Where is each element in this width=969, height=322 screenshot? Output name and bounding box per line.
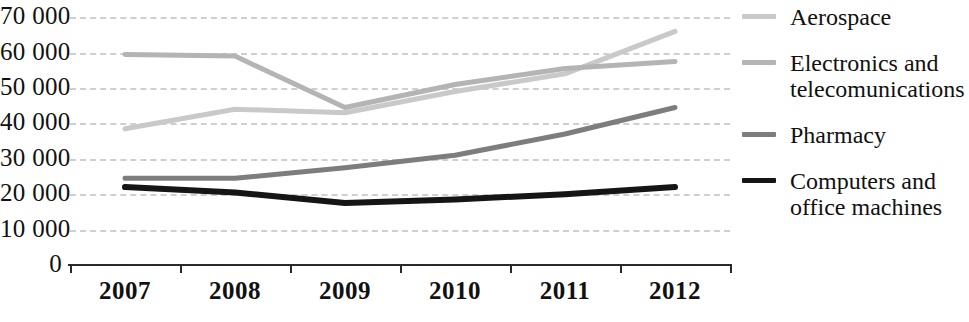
x-axis-tick bbox=[730, 264, 732, 273]
legend-item[interactable]: Computers and office machines bbox=[742, 168, 942, 220]
plot-area bbox=[70, 0, 730, 322]
legend-swatch-icon bbox=[742, 132, 776, 137]
x-axis-tick-label: 2008 bbox=[180, 277, 290, 304]
x-axis-tick bbox=[290, 264, 292, 273]
y-axis-tick-label: 40 000 bbox=[0, 109, 62, 134]
series-line bbox=[125, 31, 675, 128]
legend-label: Electronics and telecomunications bbox=[790, 50, 965, 102]
x-axis-tick-label: 2007 bbox=[70, 277, 180, 304]
y-axis-tick-label: 10 000 bbox=[0, 216, 62, 241]
legend-item[interactable]: Aerospace bbox=[742, 4, 891, 30]
x-axis-tick bbox=[620, 264, 622, 273]
series-line bbox=[125, 187, 675, 203]
legend-swatch-icon bbox=[742, 178, 776, 183]
x-axis-tick bbox=[400, 264, 402, 273]
series-line bbox=[125, 108, 675, 179]
legend-label: Pharmacy bbox=[790, 122, 886, 148]
x-axis-tick-label: 2012 bbox=[620, 277, 730, 304]
x-axis-tick-label: 2010 bbox=[400, 277, 510, 304]
legend-item[interactable]: Electronics and telecomunications bbox=[742, 50, 965, 102]
y-axis-tick-label: 30 000 bbox=[0, 145, 62, 170]
x-axis-tick bbox=[180, 264, 182, 273]
x-axis-tick-label: 2011 bbox=[510, 277, 620, 304]
line-chart: 010 00020 00030 00040 00050 00060 00070 … bbox=[0, 0, 969, 322]
y-axis-tick-label: 20 000 bbox=[0, 180, 62, 205]
y-axis: 010 00020 00030 00040 00050 00060 00070 … bbox=[0, 0, 62, 322]
y-axis-tick-label: 50 000 bbox=[0, 74, 62, 99]
legend-label: Aerospace bbox=[790, 4, 891, 30]
series-group bbox=[70, 0, 730, 322]
legend-swatch-icon bbox=[742, 60, 776, 65]
legend-swatch-icon bbox=[742, 14, 776, 19]
x-axis-tick bbox=[510, 264, 512, 273]
y-axis-tick-label: 0 bbox=[0, 251, 62, 276]
x-axis-tick bbox=[70, 264, 72, 273]
legend-item[interactable]: Pharmacy bbox=[742, 122, 886, 148]
x-axis-tick-label: 2009 bbox=[290, 277, 400, 304]
legend-label: Computers and office machines bbox=[790, 168, 942, 220]
y-axis-tick-label: 60 000 bbox=[0, 39, 62, 64]
y-axis-tick-label: 70 000 bbox=[0, 3, 62, 28]
